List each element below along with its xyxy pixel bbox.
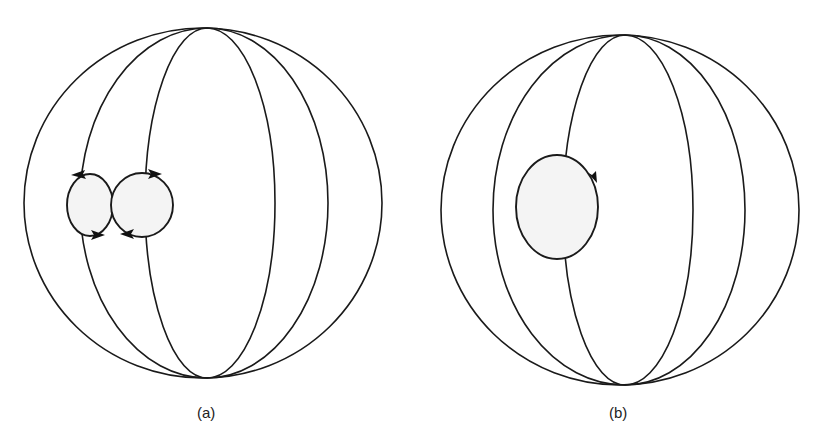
sphere-a-meridian-right-outer: [207, 28, 328, 378]
figure-diagram: [0, 0, 823, 439]
panel-b-sphere: [441, 35, 799, 385]
sphere-b-meridian-right-outer: [625, 35, 745, 385]
sphere-a-meridian-right-inner: [207, 28, 275, 378]
panel-a-sphere: [24, 28, 382, 378]
sphere-b-loop: [516, 155, 598, 259]
sphere-a-right-loop: [111, 173, 173, 237]
panel-b-caption: (b): [609, 405, 627, 420]
panel-a-caption: (a): [197, 405, 215, 420]
sphere-a-left-loop: [67, 174, 113, 236]
sphere-b-meridian-right-inner: [625, 35, 693, 385]
